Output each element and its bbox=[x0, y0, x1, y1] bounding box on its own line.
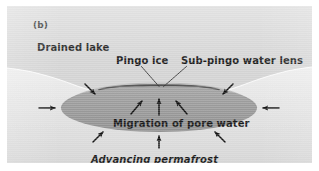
panel-label: (b) bbox=[33, 20, 48, 30]
label-migration-of-pore-water: Migration of pore water bbox=[113, 118, 250, 129]
diagram-artwork bbox=[7, 6, 312, 163]
figure-panel: (b) Drained lake Pingo ice Sub-pingo wat… bbox=[7, 6, 312, 163]
leader-line-pingo-ice bbox=[141, 66, 160, 87]
label-pingo-ice: Pingo ice bbox=[116, 55, 168, 66]
figure-root: (b) Drained lake Pingo ice Sub-pingo wat… bbox=[0, 0, 319, 171]
label-advancing-permafrost: Advancing permafrost bbox=[91, 154, 218, 163]
label-sub-pingo-water-lens: Sub-pingo water lens bbox=[181, 55, 303, 66]
label-drained-lake: Drained lake bbox=[37, 42, 110, 53]
